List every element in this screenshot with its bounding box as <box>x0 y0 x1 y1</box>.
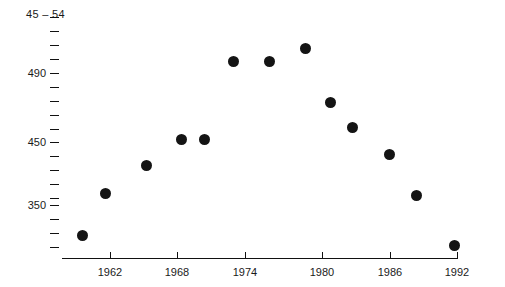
data-point <box>264 56 275 67</box>
data-point <box>449 240 460 251</box>
data-point <box>141 160 152 171</box>
data-point <box>411 190 422 201</box>
data-point <box>100 188 111 199</box>
data-point <box>176 134 187 145</box>
data-point <box>300 43 311 54</box>
data-point <box>77 230 88 241</box>
data-points-layer <box>0 0 505 287</box>
data-point <box>325 97 336 108</box>
data-point <box>199 134 210 145</box>
scatter-chart: 45 – 54 490450350 1962196819741980198619… <box>0 0 505 287</box>
data-point <box>347 122 358 133</box>
data-point <box>384 149 395 160</box>
data-point <box>228 56 239 67</box>
